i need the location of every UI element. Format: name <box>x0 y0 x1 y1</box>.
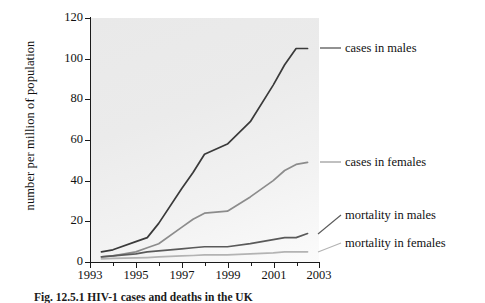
series-line-cases-in-males <box>101 49 307 252</box>
figure-caption: Fig. 12.5.1 HIV-1 cases and deaths in th… <box>34 291 474 303</box>
plot-area: 120 100 80 60 40 20 0 1993 1995 1997 <box>0 0 485 303</box>
legend-label-mortality-in-females: mortality in females <box>345 237 446 250</box>
series-line-mortality-in-males <box>101 234 307 257</box>
chart-figure: 120 100 80 60 40 20 0 1993 1995 1997 <box>0 0 485 303</box>
legend-label-cases-in-females: cases in females <box>345 156 426 169</box>
leader-line-mortality-in-females <box>318 243 341 252</box>
legend-label-mortality-in-males: mortality in males <box>345 209 436 222</box>
legend-label-cases-in-males: cases in males <box>345 42 417 55</box>
y-axis-title: number per million of population <box>23 11 38 241</box>
leader-line-mortality-in-males <box>318 215 341 234</box>
